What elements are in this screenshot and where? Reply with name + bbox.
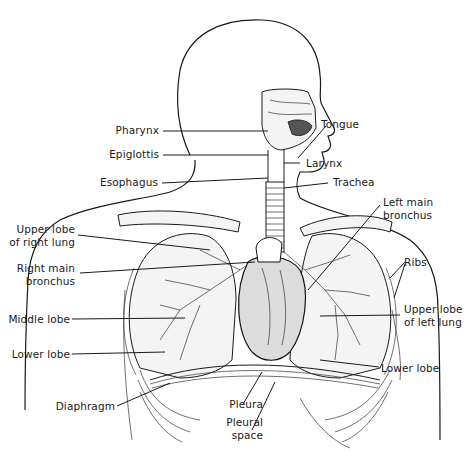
lower-ribs <box>138 370 392 448</box>
label-tongue: Tongue <box>321 118 359 131</box>
label-left-main-bronchus: Left main bronchus <box>383 196 433 222</box>
label-lower-lobe-left: Lower lobe <box>381 362 439 375</box>
right-lung <box>129 234 236 378</box>
label-middle-lobe: Middle lobe <box>8 313 70 326</box>
label-pleura: Pleura <box>229 398 263 411</box>
label-diaphragm: Diaphragm <box>56 400 115 413</box>
label-esophagus: Esophagus <box>100 176 158 189</box>
label-ribs: Ribs <box>404 256 427 269</box>
respiratory-system-diagram: Pharynx Epiglottis Esophagus Upper lobe … <box>0 0 471 465</box>
left-clavicle <box>300 216 392 236</box>
label-pharynx: Pharynx <box>115 124 159 137</box>
label-upper-lobe-right-lung: Upper lobe of right lung <box>9 223 75 249</box>
label-epiglottis: Epiglottis <box>109 148 159 161</box>
label-larynx: Larynx <box>306 157 342 170</box>
aortic-arch <box>256 238 282 262</box>
label-upper-lobe-left-lung: Upper lobe of left lung <box>404 303 463 329</box>
label-trachea: Trachea <box>333 176 375 189</box>
label-right-main-bronchus: Right main bronchus <box>17 262 75 288</box>
nasal-oral-cavity <box>262 89 316 150</box>
label-pleural-space: Pleural space <box>226 416 263 442</box>
label-lower-lobe-right: Lower lobe <box>12 348 70 361</box>
right-clavicle <box>118 211 240 232</box>
